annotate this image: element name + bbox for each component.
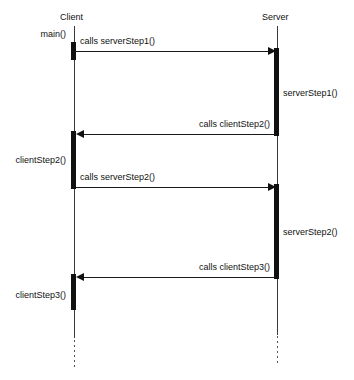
arrowhead-left-calls-clientstep3 [76,273,84,281]
activation-bar-server-step1 [274,48,279,136]
message-label-calls-clientstep2: calls clientStep2() [120,119,270,130]
activation-label-main: main() [0,29,66,40]
activation-bar-server-step2 [274,184,279,279]
lifeline-server-dotted [277,336,278,366]
arrowhead-right-calls-serverstep2 [268,183,276,191]
participant-label-server: Server [262,12,289,23]
lifeline-client-dotted [74,340,75,368]
message-line-calls-serverstep1 [76,51,274,52]
message-label-calls-serverstep1: calls serverStep1() [80,36,155,47]
activation-label-server-step-2: serverStep2() [283,227,338,238]
sequence-diagram: Client Server main() serverStep1() clien… [0,0,354,380]
message-line-calls-clientstep3 [80,277,276,278]
message-line-calls-serverstep2 [76,187,274,188]
activation-label-client-step-3: clientStep3() [0,290,66,301]
activation-bar-client-step2 [71,131,76,189]
participant-label-client: Client [60,12,83,23]
lifeline-client-tail [74,310,75,338]
arrowhead-left-calls-clientstep2 [76,130,84,138]
activation-label-client-step-2: clientStep2() [0,155,66,166]
arrowhead-right-calls-serverstep1 [268,47,276,55]
message-label-calls-serverstep2: calls serverStep2() [80,172,155,183]
message-line-calls-clientstep2 [80,134,276,135]
activation-label-server-step-1: serverStep1() [283,88,338,99]
message-label-calls-clientstep3: calls clientStep3() [120,262,270,273]
